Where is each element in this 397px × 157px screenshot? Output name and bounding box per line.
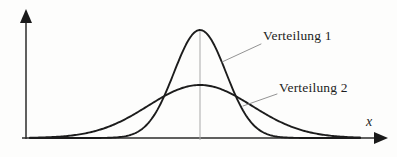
x-axis-arrowhead bbox=[374, 132, 388, 144]
figure-canvas bbox=[0, 0, 397, 157]
distribution-1-label: Verteilung 1 bbox=[263, 28, 332, 44]
distribution-2-leader-line bbox=[243, 94, 277, 106]
distribution-comparison-figure: Verteilung 1 Verteilung 2 x bbox=[0, 0, 397, 157]
distribution-1-leader-line bbox=[222, 44, 261, 62]
distribution-2-label: Verteilung 2 bbox=[279, 80, 348, 96]
y-axis-arrowhead bbox=[20, 9, 32, 23]
x-axis-label: x bbox=[366, 114, 372, 130]
